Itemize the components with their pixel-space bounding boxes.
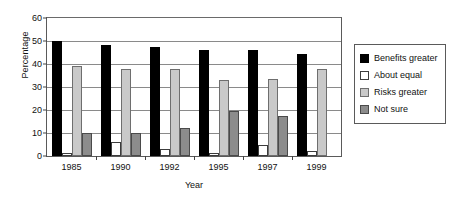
x-axis-tick-label: 1985 <box>61 162 81 172</box>
plot-frame: 0102030405060198519901992199519971999 <box>46 17 342 157</box>
bar-notsure <box>278 116 288 156</box>
legend-item: Risks greater <box>360 84 441 101</box>
bar-risks <box>219 80 229 156</box>
x-axis-tick-mark <box>194 156 195 160</box>
x-axis-tick-mark <box>96 156 97 160</box>
legend-item: Not sure <box>360 101 441 118</box>
bar-equal <box>160 149 170 156</box>
bar-risks <box>268 79 278 156</box>
bar-benefits <box>199 50 209 156</box>
legend-swatch-equal-icon <box>360 71 369 80</box>
bar-equal <box>307 151 317 156</box>
bar-group: 1997 <box>243 18 292 156</box>
bar-benefits <box>101 45 111 156</box>
bar-group: 1990 <box>96 18 145 156</box>
bar-group: 1999 <box>292 18 341 156</box>
bar-benefits <box>297 54 307 156</box>
x-axis-tick-mark <box>145 156 146 160</box>
x-axis-tick-label: 1990 <box>110 162 130 172</box>
x-axis-tick-label: 1995 <box>208 162 228 172</box>
chart-legend: Benefits greaterAbout equalRisks greater… <box>354 44 446 124</box>
bar-group: 1992 <box>145 18 194 156</box>
bar-group-bars <box>243 18 292 156</box>
legend-swatch-risks-icon <box>360 88 369 97</box>
bar-equal <box>209 153 219 156</box>
bar-equal <box>111 142 121 156</box>
bar-risks <box>317 69 327 156</box>
bar-risks <box>170 69 180 156</box>
plot-area: 0102030405060198519901992199519971999 <box>47 18 341 156</box>
bar-risks <box>121 69 131 156</box>
bar-notsure <box>229 111 239 156</box>
bar-group-bars <box>194 18 243 156</box>
legend-item: Benefits greater <box>360 50 441 67</box>
y-axis-tick-label: 10 <box>32 128 42 138</box>
y-axis-tick-label: 0 <box>37 151 42 161</box>
bar-group-bars <box>96 18 145 156</box>
legend-item-label: Risks greater <box>374 88 427 97</box>
bar-group-bars <box>145 18 194 156</box>
bar-risks <box>72 66 82 156</box>
x-axis-tick-mark <box>243 156 244 160</box>
bar-notsure <box>82 133 92 156</box>
x-axis-title: Year <box>46 180 342 190</box>
x-axis-tick-label: 1992 <box>159 162 179 172</box>
y-axis-tick-label: 60 <box>32 13 42 23</box>
bar-notsure <box>180 128 190 156</box>
bar-group-bars <box>47 18 96 156</box>
y-axis-tick-label: 30 <box>32 82 42 92</box>
bar-chart-figure: Percentage 01020304050601985199019921995… <box>0 0 449 198</box>
bar-benefits <box>52 41 62 156</box>
legend-swatch-benefits-icon <box>360 54 369 63</box>
y-axis-tick-label: 50 <box>32 36 42 46</box>
legend-item-label: Not sure <box>374 105 408 114</box>
bar-notsure <box>131 133 141 156</box>
bar-equal <box>62 153 72 156</box>
bar-group: 1985 <box>47 18 96 156</box>
bar-group: 1995 <box>194 18 243 156</box>
bar-benefits <box>150 47 160 156</box>
x-axis-tick-label: 1997 <box>257 162 277 172</box>
bar-equal <box>258 145 268 157</box>
bar-group-bars <box>292 18 341 156</box>
x-axis-tick-label: 1999 <box>306 162 326 172</box>
legend-swatch-notsure-icon <box>360 105 369 114</box>
y-axis-title: Percentage <box>20 0 30 110</box>
bar-benefits <box>248 50 258 156</box>
y-axis-tick-label: 40 <box>32 59 42 69</box>
legend-item: About equal <box>360 67 441 84</box>
legend-item-label: About equal <box>374 71 422 80</box>
y-axis-tick-label: 20 <box>32 105 42 115</box>
legend-item-label: Benefits greater <box>374 54 438 63</box>
x-axis-tick-mark <box>292 156 293 160</box>
